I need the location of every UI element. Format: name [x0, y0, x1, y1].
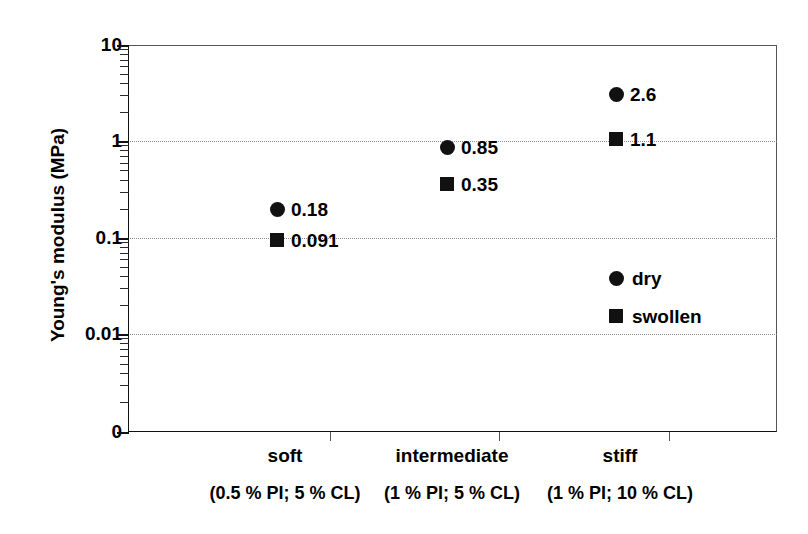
y-major-tick-1	[117, 141, 129, 143]
y-minor-tick	[120, 402, 129, 403]
y-minor-tick	[120, 49, 129, 50]
x-category-sublabel-soft: (0.5 % PI; 5 % CL)	[209, 483, 360, 504]
y-tick-label-0.1: 0.1	[2, 228, 122, 247]
y-minor-tick	[120, 60, 129, 61]
y-tick-label-0: 0	[2, 422, 122, 441]
y-minor-tick	[120, 343, 129, 344]
data-label-dry-soft: 0.18	[291, 200, 328, 219]
y-major-tick-0.1	[117, 238, 129, 240]
y-minor-tick	[120, 112, 129, 113]
data-label-dry-stiff: 2.6	[630, 85, 656, 104]
legend-marker-dry	[609, 271, 624, 286]
y-major-tick-0.01	[117, 334, 129, 336]
y-minor-tick	[120, 385, 129, 386]
y-minor-tick	[120, 259, 129, 260]
y-minor-tick	[120, 373, 129, 374]
y-minor-tick	[120, 305, 129, 306]
data-point-dry-soft	[270, 202, 285, 217]
x-category-sublabel-intermediate: (1 % PI; 5 % CL)	[384, 483, 520, 504]
y-minor-tick	[120, 247, 129, 248]
y-minor-tick	[120, 267, 129, 268]
y-minor-tick	[120, 242, 129, 243]
legend-label-dry: dry	[632, 269, 662, 288]
y-major-tick-10	[117, 45, 129, 47]
y-minor-tick	[120, 145, 129, 146]
y-minor-tick	[120, 192, 129, 193]
x-category-sublabel-stiff: (1 % PI; 10 % CL)	[547, 483, 693, 504]
y-tick-label-10: 10	[2, 35, 122, 54]
data-point-swollen-intermediate	[440, 177, 454, 191]
legend-label-swollen: swollen	[632, 307, 702, 326]
y-minor-tick	[120, 180, 129, 181]
y-minor-tick	[120, 66, 129, 67]
x-separator-tick	[330, 432, 331, 441]
data-label-swollen-stiff: 1.1	[630, 130, 656, 149]
x-category-label-intermediate: intermediate	[396, 445, 509, 467]
x-separator-tick	[499, 432, 500, 441]
y-minor-tick	[120, 209, 129, 210]
y-minor-tick	[120, 150, 129, 151]
data-point-swollen-stiff	[609, 132, 623, 146]
gridline-0.1	[128, 238, 777, 239]
chart-figure: Young's modulus (MPa) 1010.10.0100.180.0…	[0, 0, 808, 534]
gridline-0.01	[128, 334, 777, 335]
y-minor-tick	[120, 54, 129, 55]
x-separator-tick	[669, 432, 670, 441]
y-minor-tick	[120, 276, 129, 277]
y-minor-tick	[120, 170, 129, 171]
data-point-dry-stiff	[609, 87, 624, 102]
y-minor-tick	[120, 364, 129, 365]
y-minor-tick	[120, 95, 129, 96]
data-point-dry-intermediate	[440, 140, 455, 155]
data-label-swollen-intermediate: 0.35	[461, 175, 498, 194]
y-tick-label-1: 1	[2, 131, 122, 150]
y-minor-tick	[120, 288, 129, 289]
y-minor-tick	[120, 83, 129, 84]
data-label-swollen-soft: 0.091	[291, 231, 339, 250]
y-minor-tick	[120, 74, 129, 75]
y-minor-tick	[120, 349, 129, 350]
data-label-dry-intermediate: 0.85	[461, 138, 498, 157]
y-minor-tick	[120, 253, 129, 254]
x-category-label-stiff: stiff	[603, 445, 638, 467]
y-minor-tick	[120, 163, 129, 164]
data-point-swollen-soft	[270, 233, 284, 247]
x-category-label-soft: soft	[268, 445, 303, 467]
y-tick-label-0.01: 0.01	[2, 324, 122, 343]
y-minor-tick	[120, 356, 129, 357]
y-minor-tick	[120, 338, 129, 339]
legend-marker-swollen	[609, 309, 623, 323]
y-major-tick-0	[117, 432, 129, 434]
y-minor-tick	[120, 156, 129, 157]
